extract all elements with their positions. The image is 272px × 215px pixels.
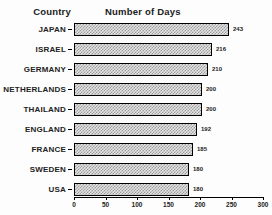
- category-label: SWEDEN: [0, 165, 68, 174]
- bar-row: FRANCE185: [0, 139, 272, 159]
- x-tick-mark: [200, 197, 201, 200]
- bar-rows: JAPAN243ISRAEL216GERMANY210NETHERLANDS20…: [0, 19, 272, 199]
- bar-row: NETHERLANDS200: [0, 79, 272, 99]
- bar-row: USA180: [0, 179, 272, 199]
- y-axis-header-country: Country: [0, 6, 71, 17]
- value-label: 216: [216, 46, 226, 52]
- x-tick-label: 50: [102, 201, 109, 208]
- value-label: 180: [193, 186, 203, 192]
- value-label: 200: [206, 106, 216, 112]
- category-tick-mark: [68, 109, 72, 110]
- category-label: USA: [0, 185, 68, 194]
- category-tick-mark: [68, 69, 72, 70]
- value-label: 180: [193, 166, 203, 172]
- bar-row: ISRAEL216: [0, 39, 272, 59]
- category-tick-mark: [68, 149, 72, 150]
- bar-chart: Country Number of Days JAPAN243ISRAEL216…: [0, 0, 272, 215]
- x-tick-label: 0: [72, 201, 76, 208]
- bar: [74, 183, 189, 196]
- x-tick-label: 200: [195, 201, 206, 208]
- category-label: JAPAN: [0, 25, 68, 34]
- bar: [74, 163, 189, 176]
- value-label: 185: [197, 146, 207, 152]
- category-label: NETHERLANDS: [0, 85, 68, 94]
- category-label: FRANCE: [0, 145, 68, 154]
- x-tick-mark: [232, 197, 233, 200]
- bar: [74, 23, 229, 36]
- category-label: ISRAEL: [0, 45, 68, 54]
- category-tick-mark: [68, 169, 72, 170]
- bar-row: GERMANY210: [0, 59, 272, 79]
- category-label: THAILAND: [0, 105, 68, 114]
- x-tick-mark: [74, 197, 75, 200]
- bar-row: THAILAND200: [0, 99, 272, 119]
- bar: [74, 63, 208, 76]
- x-tick-mark: [169, 197, 170, 200]
- category-tick-mark: [68, 29, 72, 30]
- x-tick-mark: [263, 197, 264, 200]
- bar-row: SWEDEN180: [0, 159, 272, 179]
- category-tick-mark: [68, 129, 72, 130]
- bar: [74, 83, 202, 96]
- bar: [74, 103, 202, 116]
- x-axis-ticks: 050100150200250300: [74, 197, 264, 211]
- x-tick-mark: [137, 197, 138, 200]
- bar: [74, 43, 212, 56]
- value-label: 200: [206, 86, 216, 92]
- bar-row: ENGLAND192: [0, 119, 272, 139]
- value-label: 210: [212, 66, 222, 72]
- value-label: 192: [201, 126, 211, 132]
- bar: [74, 143, 193, 156]
- x-tick-label: 300: [258, 201, 269, 208]
- x-tick-label: 250: [226, 201, 237, 208]
- x-tick-mark: [106, 197, 107, 200]
- value-label: 243: [233, 26, 243, 32]
- x-tick-label: 150: [163, 201, 174, 208]
- category-tick-mark: [68, 89, 72, 90]
- category-label: ENGLAND: [0, 125, 68, 134]
- chart-title-number-of-days: Number of Days: [105, 6, 181, 17]
- bar-row: JAPAN243: [0, 19, 272, 39]
- category-tick-mark: [68, 189, 72, 190]
- category-tick-mark: [68, 49, 72, 50]
- bar: [74, 123, 197, 136]
- x-tick-label: 100: [132, 201, 143, 208]
- category-label: GERMANY: [0, 65, 68, 74]
